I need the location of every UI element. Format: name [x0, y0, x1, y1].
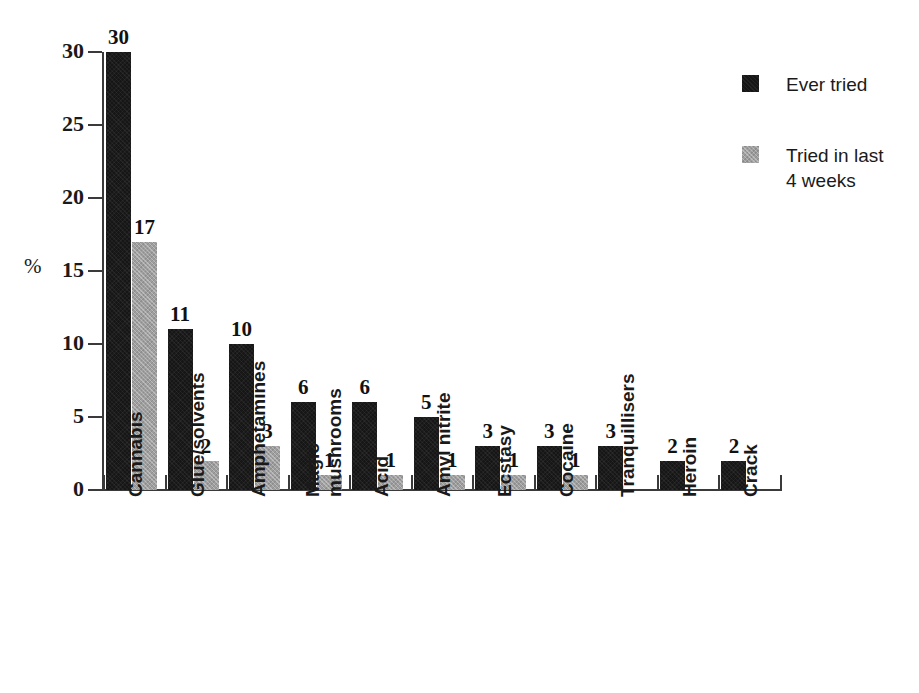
bar-group: 2 [660, 52, 722, 490]
x-axis-category-label-line: mushrooms [324, 388, 346, 497]
x-axis-category-label: Heroin [679, 437, 701, 497]
legend-swatch-light-icon [742, 146, 759, 163]
legend-item-ever-tried: Ever tried [742, 72, 919, 96]
bar-group: 61 [352, 52, 414, 490]
legend-label-tried-last-4-weeks: Tried in last4 weeks [786, 143, 884, 193]
bar-value-label: 10 [212, 319, 272, 340]
x-axis-category-label: Cocaine [556, 423, 578, 497]
x-axis-category-label-line: Magic [302, 443, 324, 497]
y-axis-unit-label: % [24, 254, 42, 279]
y-axis-tick [88, 197, 102, 199]
bar-value-label: 11 [150, 304, 210, 325]
legend-label-ever-tried: Ever tried [786, 72, 867, 97]
y-axis-tick-label: 15 [40, 259, 84, 281]
bar-value-label: 17 [115, 217, 175, 238]
legend-label-line2: 4 weeks [786, 170, 856, 191]
chart-legend: Ever tried Tried in last4 weeks [742, 72, 919, 214]
y-axis-tick-label: 5 [40, 405, 84, 427]
bar-chart: % 302520151050 30171121036161513131322 C… [0, 0, 919, 693]
y-axis-tick [88, 416, 102, 418]
y-axis-tick [88, 343, 102, 345]
x-axis-category-label: Ecstasy [494, 425, 516, 497]
y-axis-tick-label: 20 [40, 186, 84, 208]
x-axis-category-label: Crack [740, 444, 762, 497]
legend-label-line1: Tried in last [786, 145, 884, 166]
y-axis-tick [88, 489, 102, 491]
y-axis-tick [88, 270, 102, 272]
x-axis-category-label: Glue/solvents [187, 372, 209, 497]
y-axis-tick [88, 51, 102, 53]
bar-value-label: 30 [89, 27, 149, 48]
legend-swatch-dark-icon [742, 75, 759, 92]
legend-item-tried-last-4-weeks: Tried in last4 weeks [742, 143, 919, 167]
y-axis-tick-label: 25 [40, 113, 84, 135]
y-axis-tick [88, 124, 102, 126]
y-axis-tick-label: 10 [40, 332, 84, 354]
x-axis-category-label: Amphetamines [248, 361, 270, 497]
y-axis-tick-label: 30 [40, 40, 84, 62]
x-axis-category-label: Amyl nitrite [433, 392, 455, 497]
x-axis-category-label: Cannabis [125, 411, 147, 497]
x-axis-category-label: Acid [371, 456, 393, 497]
x-axis-category-label: Tranquillisers [617, 373, 639, 497]
y-axis-tick-label: 0 [40, 478, 84, 500]
